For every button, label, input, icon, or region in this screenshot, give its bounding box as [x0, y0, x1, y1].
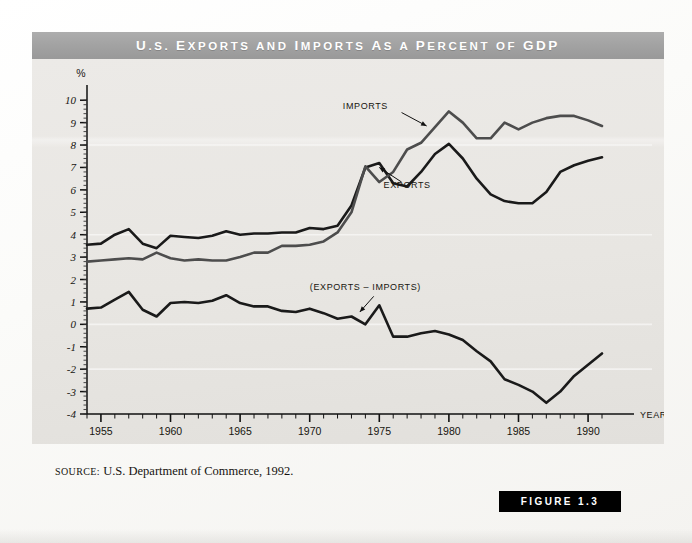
line-chart: -4-3-2-101234567891019551960196519701975… — [32, 59, 664, 444]
x-tick-label: 1965 — [228, 425, 252, 437]
y-tick-label: 6 — [71, 184, 77, 196]
page-bottom-shadow — [0, 529, 692, 543]
axis-ticks — [80, 100, 602, 422]
x-axis-title: YEAR — [640, 410, 664, 420]
source-label: SOURCE: — [55, 466, 100, 477]
axis-titles: %YEAR — [76, 67, 664, 420]
x-tick-label: 1980 — [437, 425, 461, 437]
difference-label: (EXPORTS – IMPORTS) — [310, 282, 421, 292]
x-tick-label: 1990 — [576, 425, 600, 437]
figure-title: U.S. EXPORTS AND IMPORTS AS A PERCENT OF… — [136, 38, 560, 53]
figure-page: U.S. EXPORTS AND IMPORTS AS A PERCENT OF… — [0, 0, 692, 543]
exports-label: EXPORTS — [384, 180, 431, 190]
series-line-2 — [87, 111, 602, 261]
y-tick-label: 8 — [71, 139, 77, 151]
y-tick-label: -1 — [67, 341, 76, 353]
figure-number-label: FIGURE 1.3 — [521, 496, 599, 507]
y-tick-label: 5 — [71, 206, 77, 218]
y-axis-title: % — [76, 67, 85, 79]
x-tick-label: 1960 — [159, 425, 183, 437]
source-text: U.S. Department of Commerce, 1992. — [103, 464, 293, 478]
y-tick-label: 10 — [65, 94, 77, 106]
y-tick-label: -2 — [67, 363, 77, 375]
y-tick-label: 2 — [71, 274, 77, 286]
source-note: SOURCE: U.S. Department of Commerce, 199… — [55, 464, 293, 479]
x-tick-label: 1985 — [507, 425, 531, 437]
x-tick-label: 1970 — [298, 425, 322, 437]
series-line-1 — [87, 144, 602, 248]
y-tick-label: 0 — [71, 318, 77, 330]
y-tick-label: -4 — [67, 408, 77, 420]
y-tick-label: 4 — [71, 229, 77, 241]
axes — [87, 85, 634, 414]
y-tick-label: 9 — [71, 117, 77, 129]
series-line-3 — [87, 292, 602, 403]
y-tick-label: -3 — [67, 386, 77, 398]
figure-title-bar: U.S. EXPORTS AND IMPORTS AS A PERCENT OF… — [32, 32, 664, 59]
figure-number-badge: FIGURE 1.3 — [499, 491, 621, 512]
y-tick-label: 7 — [71, 161, 77, 173]
imports-label: IMPORTS — [343, 101, 388, 111]
x-tick-label: 1975 — [368, 425, 392, 437]
y-tick-label: 3 — [70, 251, 77, 263]
data-series-group — [87, 111, 602, 402]
chart-annotations: IMPORTSEXPORTS(EXPORTS – IMPORTS) — [310, 101, 431, 312]
grid-lines — [87, 145, 652, 369]
x-tick-label: 1955 — [89, 425, 113, 437]
chart-plot-area: -4-3-2-101234567891019551960196519701975… — [32, 59, 664, 444]
y-tick-label: 1 — [71, 296, 77, 308]
